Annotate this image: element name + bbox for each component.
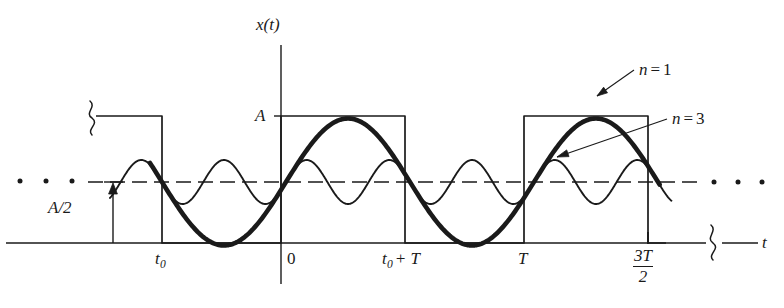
annotation-arrow-n3-head	[557, 150, 569, 157]
amplitude-label-A: A	[255, 107, 265, 124]
annotation-arrow-n1-head	[597, 87, 608, 96]
ellipsis-dot-left	[44, 179, 49, 184]
fraction-denominator: 2	[633, 267, 653, 286]
ellipsis-dot-left	[18, 179, 23, 184]
ellipsis-dot-right	[712, 180, 717, 185]
annotation-n3-eq: =	[684, 109, 694, 128]
square-wave-trace	[96, 116, 666, 243]
x-tick-t0T-rest: + T	[395, 249, 420, 268]
axis-break-squiggle-right	[710, 225, 715, 260]
annotation-n1-eq: =	[651, 60, 661, 79]
x-tick-label-t0: t0	[155, 250, 166, 270]
x-tick-label-T: T	[518, 250, 527, 267]
annotation-label-n1: n=1	[639, 61, 672, 78]
x-tick-label-t0-plus-T: t0+ T	[382, 250, 420, 270]
y-axis-label: x(t)	[256, 16, 280, 33]
x-tick-label-origin: 0	[287, 250, 296, 267]
square-wave-break-squiggle-left	[89, 101, 94, 135]
annotation-label-n3: n=3	[672, 110, 705, 127]
harmonic-n3-trace	[110, 160, 671, 204]
x-axis-label: t	[762, 234, 767, 251]
x-tick-t0-subscript: 0	[160, 258, 166, 271]
x-tick-label-three-halves-T: 3T2	[633, 247, 653, 285]
annotation-n3-var: n	[672, 109, 681, 128]
fraction-numerator: 3T	[633, 247, 653, 267]
fraction-3T-over-2: 3T2	[633, 247, 653, 285]
offset-label-a-over-two: A/2	[48, 199, 72, 216]
ellipsis-dot-right	[760, 180, 765, 185]
ellipsis-dot-right	[736, 180, 741, 185]
x-tick-t0T-subscript: 0	[387, 258, 393, 271]
annotation-n1-var: n	[639, 60, 648, 79]
annotation-n3-value: 3	[696, 109, 705, 128]
offset-label-text: A/2	[48, 198, 72, 217]
annotation-n1-value: 1	[663, 60, 672, 79]
ellipsis-dot-left	[70, 179, 75, 184]
fourier-square-wave-figure: x(t) A A/2 t0 0 t0+ T T 3T2 t n=1 n=3	[0, 0, 784, 308]
